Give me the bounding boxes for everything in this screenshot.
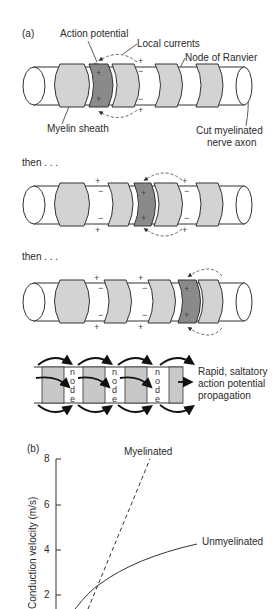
svg-text:+: + xyxy=(95,176,100,186)
svg-text:−: − xyxy=(93,58,98,68)
node-label-1: n o d e xyxy=(70,367,75,404)
svg-text:+: + xyxy=(138,273,143,283)
y-tick-6: 6 xyxy=(44,499,50,510)
axon-diagram-2: + − − + + + + − − + xyxy=(23,173,252,236)
cut-axon-label-line2: nerve axon xyxy=(207,137,256,148)
svg-text:−: − xyxy=(98,283,103,293)
axon-diagram-1: + + − + − − + xyxy=(23,54,252,117)
svg-text:e: e xyxy=(70,394,75,404)
svg-text:+: + xyxy=(96,68,101,78)
svg-text:+: + xyxy=(94,322,99,332)
svg-text:+: + xyxy=(138,56,143,66)
svg-text:+: + xyxy=(182,225,187,235)
y-tick-4: 4 xyxy=(44,544,50,555)
saltatory-caption-line1: Rapid, saltatory xyxy=(198,366,267,377)
svg-text:+: + xyxy=(138,322,143,332)
svg-text:e: e xyxy=(112,394,117,404)
local-currents-leader xyxy=(123,44,137,54)
saltatory-caption-line2: action potential xyxy=(198,378,265,389)
svg-text:−: − xyxy=(142,310,147,320)
y-axis-label: Conduction velocity (m/s) xyxy=(27,497,38,609)
saltatory-caption-line3: propagation xyxy=(198,390,251,401)
svg-text:−: − xyxy=(184,213,189,223)
svg-text:−: − xyxy=(98,310,103,320)
then-label-1: then . . . xyxy=(22,157,58,168)
y-tick-2: 2 xyxy=(44,589,50,600)
myelinated-series-label: Myelinated xyxy=(124,446,172,457)
svg-text:−: − xyxy=(138,94,143,104)
action-potential-label: Action potential xyxy=(60,28,128,39)
panel-b-label: (b) xyxy=(27,443,39,454)
svg-text:e: e xyxy=(155,394,160,404)
svg-text:+: + xyxy=(184,310,189,320)
svg-text:+: + xyxy=(94,273,99,283)
svg-text:−: − xyxy=(142,283,147,293)
unmyelinated-curve xyxy=(75,544,197,609)
svg-text:−: − xyxy=(184,186,189,196)
saltatory-conduction-schematic: n o d e n o d e n o d e xyxy=(34,358,192,412)
svg-text:+: + xyxy=(95,225,100,235)
myelin-sheath-label: Myelin sheath xyxy=(47,123,109,134)
svg-text:−: − xyxy=(98,186,103,196)
svg-text:+: + xyxy=(141,188,146,198)
node-label-3: n o d e xyxy=(155,367,160,404)
svg-text:+: + xyxy=(182,176,187,186)
cut-axon-label-line1: Cut myelinated xyxy=(196,125,263,136)
svg-text:+: + xyxy=(138,105,143,115)
unmyelinated-series-label: Unmyelinated xyxy=(202,536,263,547)
axon-diagram-3: + − − + + − − + + + xyxy=(23,269,252,335)
svg-text:+: + xyxy=(96,94,101,104)
svg-text:+: + xyxy=(184,284,189,294)
node-of-ranvier-label: Node of Ranvier xyxy=(185,52,258,63)
node-label-2: n o d e xyxy=(112,367,117,404)
svg-text:−: − xyxy=(138,66,143,76)
panel-a-label: (a) xyxy=(22,28,34,39)
svg-text:−: − xyxy=(98,213,103,223)
conduction-velocity-chart: 8 6 4 2 Conduction velocity (m/s) Myelin… xyxy=(27,446,263,609)
myelinated-axon-figure: (a) Action potential Local currents Node… xyxy=(0,0,280,609)
y-tick-8: 8 xyxy=(44,453,50,464)
myelinated-line xyxy=(88,459,150,609)
svg-text:+: + xyxy=(141,213,146,223)
then-label-2: then . . . xyxy=(22,251,58,262)
local-currents-label: Local currents xyxy=(137,38,200,49)
